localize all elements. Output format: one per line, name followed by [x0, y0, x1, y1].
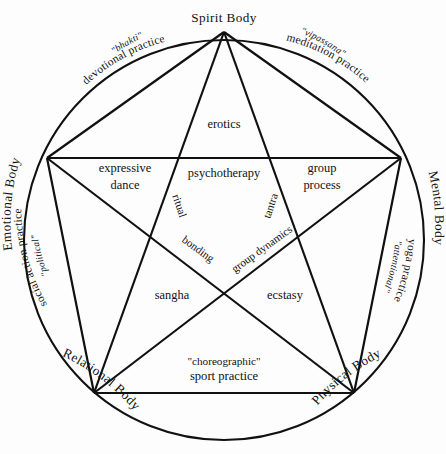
edge-label-tantra: tantra — [261, 192, 280, 220]
region-label-erotics: erotics — [207, 117, 240, 131]
pentagram-diagram: Spirit Body Emotional Body Mental Body R… — [0, 0, 446, 454]
region-label-psychotherapy: psychotherapy — [188, 166, 261, 180]
edge-label-group-dynamics: group dynamics — [229, 223, 294, 275]
chord-spirit-relational — [94, 32, 224, 393]
region-label-sangha: sangha — [155, 288, 190, 302]
vertex-label-spirit: Spirit Body — [191, 10, 257, 25]
region-label-group-process-line2: process — [303, 178, 340, 192]
region-label-expressive-dance-line1: expressive — [99, 161, 152, 175]
diagram-canvas: Spirit Body Emotional Body Mental Body R… — [0, 0, 446, 454]
edge-label-ritual: ritual — [170, 193, 189, 219]
vertex-label-relational: Relational Body — [61, 345, 144, 413]
region-label-ecstasy: ecstasy — [267, 288, 304, 302]
region-label-group-process-line1: group — [308, 161, 337, 175]
arc-label-choreographic-main: sport practice — [190, 369, 259, 383]
pentagram-chords — [47, 32, 401, 393]
edge-label-bonding: bonding — [180, 233, 217, 265]
pentagon-edges — [47, 32, 401, 393]
vertex-label-mental: Mental Body — [426, 169, 446, 246]
arc-label-choreographic-quote: "choreographic" — [187, 355, 260, 367]
region-label-expressive-dance-line2: dance — [111, 178, 140, 192]
chord-spirit-physical — [224, 32, 354, 393]
